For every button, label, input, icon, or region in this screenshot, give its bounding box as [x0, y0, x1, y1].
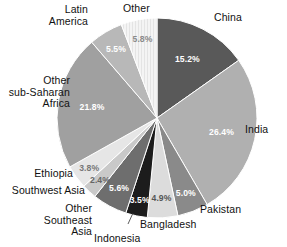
slice-percent-ethiopia: 3.8% — [79, 163, 99, 173]
category-label-other-sub-saharan-africa: Other sub-Saharan Africa — [0, 75, 70, 110]
slice-percent-bangladesh: 4.9% — [152, 193, 172, 203]
category-label-ethiopia: Ethiopia — [0, 168, 73, 180]
slice-percent-pakistan: 5.0% — [176, 188, 196, 198]
pie-slices — [57, 18, 257, 218]
category-label-bangladesh: Bangladesh — [140, 219, 196, 231]
category-label-southwest-asia: Southwest Asia — [0, 185, 85, 197]
category-label-other: Other — [123, 3, 150, 15]
slice-percent-other-sub-saharan-africa: 21.8% — [80, 102, 105, 112]
slice-percent-southwest-asia: 2.4% — [90, 175, 110, 185]
category-label-pakistan: Pakistan — [200, 204, 241, 216]
category-label-china: China — [214, 12, 242, 24]
slice-percent-china: 15.2% — [175, 54, 200, 64]
slice-percent-latin-america: 5.5% — [106, 44, 126, 54]
slice-percent-other-southeast-asia: 5.6% — [109, 183, 129, 193]
slice-percent-other: 5.8% — [133, 34, 153, 44]
slice-percent-indonesia: 3.5% — [130, 195, 150, 205]
category-label-other-southeast-asia: Other Southeast Asia — [0, 203, 92, 238]
slice-percent-india: 26.4% — [209, 127, 234, 137]
category-label-india: India — [245, 124, 268, 136]
category-label-latin-america: Latin America — [0, 4, 88, 27]
category-label-indonesia: Indonesia — [94, 233, 140, 245]
pie-chart: 15.2%26.4%5.0%4.9%3.5%5.6%2.4%3.8%21.8%5… — [0, 0, 287, 247]
